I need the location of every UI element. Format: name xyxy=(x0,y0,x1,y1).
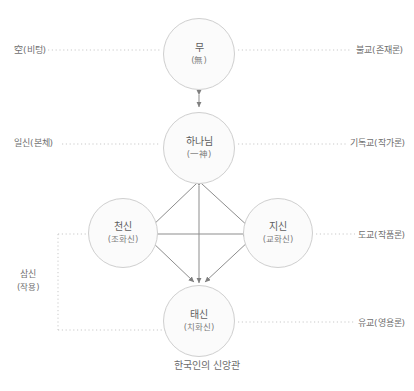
label-bulgyo: 불교(존재론) xyxy=(356,43,403,56)
label-gong: 空(비텅) xyxy=(14,43,46,56)
label-yugyo: 유교(영용론) xyxy=(358,316,405,329)
label-dogyo: 도교(작품론) xyxy=(358,228,405,241)
label-ilsin: 일신(본체) xyxy=(14,136,53,149)
label-samsin: 삼신 (작용) xyxy=(17,268,40,293)
node-hananim[interactable]: 하나님 (一神) xyxy=(163,112,235,184)
arrow-god-chon xyxy=(150,184,196,228)
arrow-ji-tae xyxy=(205,240,250,282)
node-hananim-main: 하나님 xyxy=(186,136,213,149)
node-jisin-sub: (교화신) xyxy=(263,234,294,245)
node-taesin-sub: (치화신) xyxy=(184,322,215,333)
node-cheonsin[interactable]: 천신 (조화신) xyxy=(88,198,158,268)
node-mu-sub: (無) xyxy=(191,55,207,66)
diagram-caption: 한국인의 신앙관 xyxy=(0,357,414,372)
diagram-canvas: 무 (無) 하나님 (一神) 천신 (조화신) 지신 (교화신) 태신 (치화신… xyxy=(0,0,414,391)
node-taesin[interactable]: 태신 (치화신) xyxy=(163,285,235,357)
node-taesin-main: 태신 xyxy=(190,309,208,322)
node-hananim-sub: (一神) xyxy=(187,149,212,160)
node-mu-main: 무 xyxy=(195,42,204,55)
node-cheonsin-sub: (조화신) xyxy=(108,234,139,245)
node-cheonsin-main: 천신 xyxy=(114,221,132,234)
arrow-god-ji xyxy=(202,184,250,228)
arrow-chon-tae xyxy=(150,240,194,282)
node-mu[interactable]: 무 (無) xyxy=(163,18,235,90)
label-gidokgyo: 기독교(작가론) xyxy=(350,136,405,149)
node-jisin-main: 지신 xyxy=(269,221,287,234)
node-jisin[interactable]: 지신 (교화신) xyxy=(243,198,313,268)
label-samsin-sub: (작용) xyxy=(17,281,40,293)
label-samsin-main: 삼신 xyxy=(20,269,36,279)
